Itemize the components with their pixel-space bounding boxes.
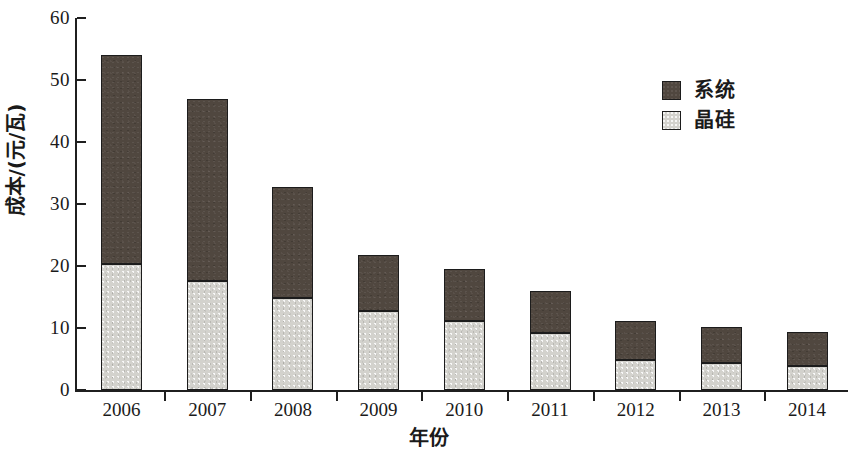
bar-segment-silicon: [444, 321, 485, 390]
y-tick-label-10: 10: [36, 318, 70, 337]
bar-2006: [101, 55, 142, 390]
y-tick-label-20: 20: [36, 256, 70, 275]
bar-segment-silicon: [530, 333, 571, 390]
y-tick-label-0: 0: [36, 380, 70, 399]
bar-segment-silicon: [272, 298, 313, 390]
bar-2013: [701, 327, 742, 390]
y-tick-label-60: 60: [36, 8, 70, 27]
bar-segment-system: [101, 55, 142, 264]
bar-segment-silicon: [701, 363, 742, 390]
bar-segment-silicon: [101, 264, 142, 390]
bar-2014: [787, 332, 828, 390]
x-tick-label-2006: 2006: [77, 399, 167, 421]
x-tick-label-2014: 2014: [762, 399, 852, 421]
bar-2007: [187, 99, 228, 390]
bar-segment-silicon: [358, 311, 399, 390]
bar-segment-system: [701, 327, 742, 363]
legend: 系统 晶硅: [662, 75, 822, 135]
x-tick-label-2010: 2010: [419, 399, 509, 421]
legend-swatch-silicon: [662, 111, 681, 130]
bar-2011: [530, 291, 571, 390]
y-tick-label-30: 30: [36, 194, 70, 213]
bar-segment-silicon: [615, 360, 656, 390]
bar-segment-system: [530, 291, 571, 333]
bar-2012: [615, 321, 656, 390]
x-tick-label-2008: 2008: [248, 399, 338, 421]
bar-segment-system: [444, 269, 485, 321]
plot-area: [75, 18, 848, 390]
bar-2008: [272, 187, 313, 390]
legend-item-silicon: 晶硅: [662, 105, 822, 135]
legend-swatch-system: [662, 81, 681, 100]
bar-chart: 0102030405060 20062007200820092010201120…: [0, 0, 858, 457]
legend-label-silicon: 晶硅: [694, 110, 736, 130]
x-tick-label-2012: 2012: [591, 399, 681, 421]
x-tick-label-2011: 2011: [505, 399, 595, 421]
bar-2009: [358, 255, 399, 390]
bar-segment-silicon: [787, 366, 828, 390]
x-axis-title: 年份: [0, 428, 858, 448]
bar-2010: [444, 269, 485, 390]
legend-label-system: 系统: [694, 80, 736, 100]
bar-segment-system: [187, 99, 228, 281]
legend-item-system: 系统: [662, 75, 822, 105]
x-tick-label-2007: 2007: [162, 399, 252, 421]
x-axis-line: [75, 390, 848, 392]
y-tick-label-40: 40: [36, 132, 70, 151]
bar-segment-silicon: [187, 281, 228, 390]
x-tick-label-2009: 2009: [334, 399, 424, 421]
bar-segment-system: [272, 187, 313, 299]
bar-segment-system: [358, 255, 399, 311]
bar-segment-system: [615, 321, 656, 361]
x-tick-label-2013: 2013: [676, 399, 766, 421]
y-tick-label-50: 50: [36, 70, 70, 89]
y-axis-title: 成本/(元/瓦): [6, 60, 26, 260]
bar-segment-system: [787, 332, 828, 367]
